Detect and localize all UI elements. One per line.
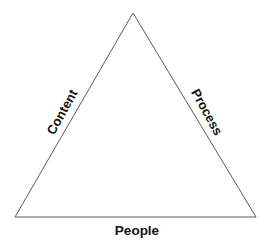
diagram-canvas: Content Process People	[0, 0, 273, 251]
triangle-label-people: People	[115, 224, 159, 238]
triangle-shape	[0, 0, 273, 251]
